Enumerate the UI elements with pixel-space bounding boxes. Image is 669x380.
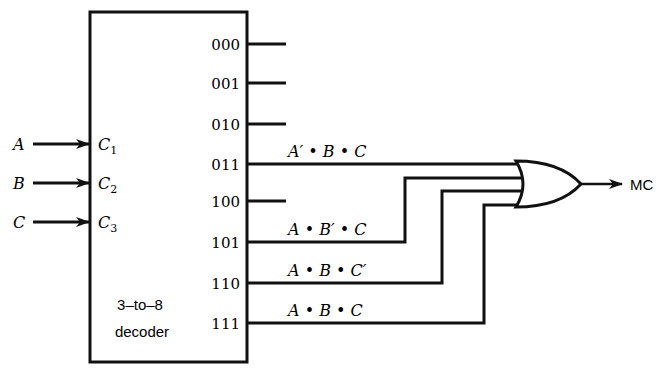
or-input-wires [247,164,521,323]
output-label-mc: MC [630,176,653,193]
output-000: 000 [211,36,240,54]
input-label-a: A [11,135,25,154]
pin-c3: C3 [98,213,117,235]
output-111: 111 [211,315,240,333]
input-arrows [33,144,89,222]
input-label-c: C [13,213,25,232]
input-label-b: B [12,174,25,193]
decoder-label-line2: decoder [115,323,169,340]
term-101: A • B′ • C [286,220,366,239]
term-011: A′ • B • C [286,142,366,161]
output-010: 010 [211,116,240,134]
output-labels: 000 001 010 011 100 101 110 111 [211,36,240,333]
decoder-circuit-diagram: A B C C1 C2 C3 000 001 010 011 100 101 1… [0,0,669,380]
term-110: A • B • C′ [286,261,367,280]
output-110: 110 [211,275,240,293]
output-100: 100 [211,193,240,211]
decoder-label-line1: 3–to–8 [117,296,163,313]
pin-c2: C2 [98,174,117,196]
unused-output-stubs [247,44,286,201]
pin-c1: C1 [98,135,117,157]
output-011: 011 [211,156,240,174]
or-gate [516,161,581,207]
output-101: 101 [211,234,240,252]
term-111: A • B • C [286,301,363,320]
output-001: 001 [211,75,240,93]
